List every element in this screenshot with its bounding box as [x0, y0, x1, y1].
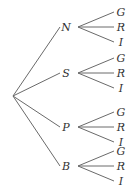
- tree-diagram: NGRISGRIPGRIBGRI: [0, 0, 131, 189]
- node-B: B: [61, 160, 70, 173]
- leaf-B-I: I: [118, 175, 124, 188]
- node-P: P: [61, 121, 70, 134]
- leaf-N-R: R: [116, 21, 125, 34]
- leaf-P-G: G: [117, 106, 126, 119]
- leaf-B-R: R: [116, 160, 125, 173]
- node-S: S: [62, 67, 70, 80]
- leaf-B-G: G: [117, 145, 126, 158]
- branch-P-I: [78, 127, 114, 142]
- branch-root-B: [13, 96, 60, 166]
- branch-S-I: [78, 73, 114, 88]
- branch-root-N: [13, 27, 60, 96]
- leaf-N-G: G: [117, 6, 126, 19]
- leaf-S-G: G: [117, 52, 126, 65]
- branch-root-S: [13, 73, 60, 96]
- leaf-S-R: R: [116, 67, 125, 80]
- branch-P-G: [78, 112, 114, 127]
- branch-B-I: [78, 166, 114, 181]
- branch-B-G: [78, 151, 114, 166]
- branch-root-P: [13, 96, 60, 127]
- node-N: N: [60, 21, 71, 34]
- leaf-S-I: I: [118, 82, 124, 95]
- branch-S-G: [78, 58, 114, 73]
- leaf-N-I: I: [118, 36, 124, 49]
- leaf-P-R: R: [116, 121, 125, 134]
- branch-N-I: [78, 27, 114, 42]
- branch-N-G: [78, 12, 114, 27]
